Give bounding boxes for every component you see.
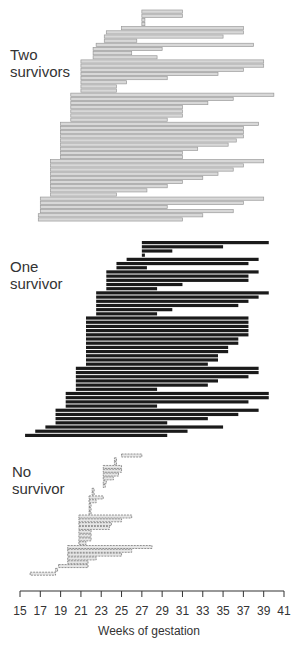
x-axis-label: Weeks of gestation xyxy=(0,624,298,638)
bar xyxy=(66,404,157,407)
bar xyxy=(89,496,103,499)
bar xyxy=(92,488,94,491)
bar xyxy=(25,434,167,437)
bar xyxy=(56,421,168,424)
bar xyxy=(86,363,208,366)
bar xyxy=(79,526,109,529)
bar xyxy=(106,31,243,34)
bar xyxy=(96,291,269,294)
bar xyxy=(103,465,121,468)
bar xyxy=(76,379,218,382)
bar xyxy=(71,97,233,100)
bar xyxy=(71,106,183,109)
bar xyxy=(79,515,132,518)
bar xyxy=(142,14,183,17)
bar xyxy=(86,350,228,353)
bar xyxy=(30,572,55,575)
bar xyxy=(103,473,118,476)
bar xyxy=(142,10,183,13)
bar xyxy=(103,477,113,480)
bar xyxy=(50,185,167,188)
bar xyxy=(71,93,274,96)
bar xyxy=(103,481,106,484)
bar xyxy=(79,530,91,533)
bar xyxy=(61,155,183,158)
bar xyxy=(81,68,243,71)
x-tick-label: 35 xyxy=(216,604,229,618)
bar xyxy=(79,523,111,526)
bar xyxy=(50,172,218,175)
bar xyxy=(35,430,187,433)
bar xyxy=(61,139,237,142)
bar xyxy=(71,114,183,117)
bar xyxy=(81,89,117,92)
bar xyxy=(92,492,94,495)
bar xyxy=(116,266,146,269)
bar xyxy=(79,519,122,522)
bar xyxy=(104,35,223,38)
bar xyxy=(86,325,248,328)
bar xyxy=(68,549,132,552)
bar xyxy=(81,64,264,67)
bar xyxy=(68,561,88,564)
bar xyxy=(86,321,248,324)
bar xyxy=(59,565,88,568)
bar xyxy=(142,249,172,252)
bar xyxy=(114,462,116,465)
bar xyxy=(50,168,233,171)
bar xyxy=(127,258,259,261)
bar xyxy=(56,568,58,571)
bar xyxy=(50,193,116,196)
bar xyxy=(86,316,248,319)
bar xyxy=(96,304,238,307)
bar xyxy=(38,218,182,221)
bar xyxy=(50,160,263,163)
bar xyxy=(56,409,259,412)
bar xyxy=(122,454,142,457)
bar xyxy=(71,118,167,121)
bar xyxy=(61,135,244,138)
bar xyxy=(106,283,182,286)
x-tick-label: 39 xyxy=(257,604,270,618)
bar xyxy=(68,553,122,556)
bar xyxy=(71,110,183,113)
bar xyxy=(79,542,86,545)
bar xyxy=(61,126,244,129)
bar xyxy=(93,47,162,50)
bar xyxy=(76,367,259,370)
bar xyxy=(50,164,243,167)
bar xyxy=(40,205,167,208)
bar xyxy=(38,214,202,217)
bar xyxy=(103,469,121,472)
bar xyxy=(79,534,91,537)
bar xyxy=(66,400,249,403)
bar xyxy=(86,346,228,349)
bar xyxy=(81,60,264,63)
bar xyxy=(76,388,157,391)
bar xyxy=(61,151,183,154)
bar xyxy=(142,22,145,25)
x-tick-label: 21 xyxy=(74,604,87,618)
bar xyxy=(40,201,243,204)
x-tick-label: 15 xyxy=(13,604,26,618)
bar xyxy=(89,504,91,507)
bar xyxy=(142,254,145,257)
bar xyxy=(86,354,218,357)
bar xyxy=(106,287,157,290)
bar xyxy=(76,384,208,387)
x-tick-label: 17 xyxy=(34,604,47,618)
bar xyxy=(89,500,96,503)
bar xyxy=(81,81,127,84)
bar xyxy=(114,458,116,461)
bar xyxy=(50,189,146,192)
bar xyxy=(86,337,238,340)
x-tick-label: 23 xyxy=(95,604,108,618)
bar xyxy=(96,43,253,46)
bar xyxy=(103,485,105,488)
bar xyxy=(68,546,152,549)
bar xyxy=(142,18,145,21)
bar xyxy=(89,507,91,510)
bar xyxy=(50,176,202,179)
bar xyxy=(50,180,182,183)
bar xyxy=(122,27,244,30)
